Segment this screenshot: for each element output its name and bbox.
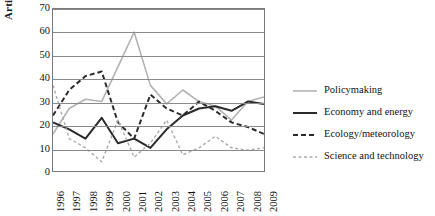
x-tick-2006: 2006 [220,191,230,212]
gridline-60 [53,32,264,33]
x-tick-1998: 1998 [89,191,99,212]
x-tick-1996: 1996 [56,191,66,212]
x-tick-1999: 1999 [105,191,115,212]
x-tick-2008: 2008 [253,191,263,212]
y-axis-tick-labels: 010203040506070 [22,0,50,176]
y-axis-title: Articles (%) [2,0,16,36]
x-tick-2002: 2002 [154,191,164,212]
legend-swatch-science-and-technology [293,149,317,161]
x-axis-tick-labels: 1996199719981999200020012002200320042005… [52,174,265,216]
legend-label: Science and technology [324,150,424,161]
x-tick-2000: 2000 [122,191,132,212]
gridline-30 [53,103,264,104]
legend-item-policymaking[interactable]: Policymaking [293,78,433,100]
x-tick-1997: 1997 [72,191,82,212]
y-tick-20: 20 [22,120,50,130]
gridline-70 [53,9,264,10]
x-tick-2004: 2004 [187,191,197,212]
x-tick-2007: 2007 [236,191,246,212]
y-tick-30: 30 [22,97,50,107]
y-tick-50: 50 [22,50,50,60]
y-tick-0: 0 [22,167,50,177]
legend-label: Economy and energy [324,106,413,117]
x-tick-2009: 2009 [269,191,279,212]
x-tick-2001: 2001 [138,191,148,212]
legend-swatch-policymaking [293,83,317,95]
gridline-50 [53,56,264,57]
chart-figure: Articles (%) 010203040506070 19961997199… [0,0,435,216]
y-tick-60: 60 [22,26,50,36]
legend-swatch-ecology-meteorology [293,127,317,139]
chart-legend: PolicymakingEconomy and energyEcology/me… [293,78,433,166]
x-tick-2005: 2005 [203,191,213,212]
legend-swatch-economy-and-energy [293,105,317,117]
series-line-economy-and-energy [53,102,264,148]
legend-label: Ecology/meteorology [324,128,415,139]
legend-item-science-and-technology[interactable]: Science and technology [293,144,433,166]
y-tick-10: 10 [22,144,50,154]
gridline-40 [53,79,264,80]
series-line-ecology-meteorology [53,71,264,138]
plot-area [52,8,265,172]
series-line-policymaking [53,32,264,134]
legend-item-economy-and-energy[interactable]: Economy and energy [293,100,433,122]
y-tick-70: 70 [22,3,50,13]
x-tick-2003: 2003 [171,191,181,212]
gridline-20 [53,126,264,127]
legend-item-ecology-meteorology[interactable]: Ecology/meteorology [293,122,433,144]
legend-label: Policymaking [324,84,382,95]
y-tick-40: 40 [22,73,50,83]
gridline-10 [53,150,264,151]
